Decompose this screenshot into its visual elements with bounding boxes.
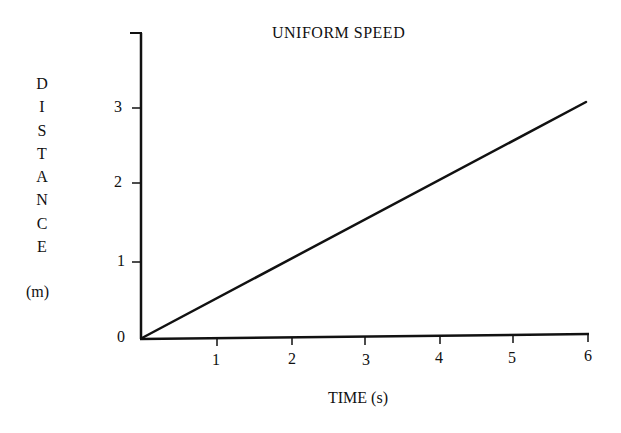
- x-tick-label-5: 5: [508, 349, 516, 367]
- y-axis-label: D I S T A N C E: [30, 72, 54, 258]
- y-tick-label-2: 2: [114, 173, 122, 191]
- y-label-letter: A: [30, 165, 54, 188]
- chart-title: UNIFORM SPEED: [272, 24, 405, 42]
- y-tick-label-3: 3: [114, 98, 122, 116]
- y-tick-label-0: 0: [117, 328, 125, 346]
- x-tick-label-4: 4: [435, 349, 443, 367]
- y-label-letter: T: [30, 142, 54, 165]
- x-tick-label-2: 2: [288, 350, 296, 368]
- y-label-letter: D: [30, 72, 54, 95]
- y-axis-unit: (m): [26, 283, 49, 301]
- y-label-letter: I: [30, 95, 54, 118]
- y-label-letter: C: [30, 212, 54, 235]
- x-tick-label-1: 1: [212, 351, 220, 369]
- x-tick-label-6: 6: [584, 347, 592, 365]
- y-label-letter: N: [30, 188, 54, 211]
- y-label-letter: E: [30, 235, 54, 258]
- x-tick-label-3: 3: [362, 351, 370, 369]
- y-tick-label-1: 1: [117, 252, 125, 270]
- y-label-letter: S: [30, 119, 54, 142]
- chart-canvas: [0, 0, 621, 433]
- distance-line: [142, 102, 586, 338]
- x-axis-label: TIME (s): [328, 389, 388, 407]
